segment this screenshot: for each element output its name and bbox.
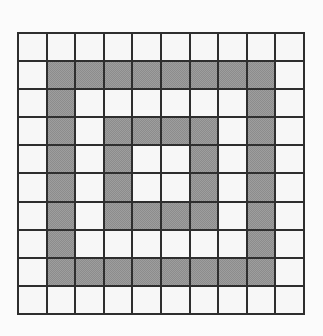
grid-cell-empty[interactable]	[18, 173, 47, 201]
grid-cell-empty[interactable]	[75, 173, 104, 201]
grid-cell-empty[interactable]	[18, 258, 47, 286]
grid-cell-filled[interactable]	[190, 173, 219, 201]
grid-cell-filled[interactable]	[190, 258, 219, 286]
grid-cell-empty[interactable]	[275, 61, 304, 89]
grid-cell-empty[interactable]	[18, 117, 47, 145]
grid-cell-empty[interactable]	[75, 33, 104, 61]
grid-cell-filled[interactable]	[75, 258, 104, 286]
grid-cell-filled[interactable]	[190, 202, 219, 230]
grid-cell-empty[interactable]	[75, 202, 104, 230]
grid-cell-filled[interactable]	[247, 89, 276, 117]
grid-cell-empty[interactable]	[75, 286, 104, 314]
grid-cell-empty[interactable]	[190, 33, 219, 61]
grid-cell-filled[interactable]	[132, 202, 161, 230]
grid-cell-filled[interactable]	[161, 117, 190, 145]
grid-cell-filled[interactable]	[247, 117, 276, 145]
grid-cell-empty[interactable]	[218, 33, 247, 61]
grid-cell-filled[interactable]	[47, 117, 76, 145]
grid-cell-empty[interactable]	[18, 286, 47, 314]
grid-cell-empty[interactable]	[218, 230, 247, 258]
grid-cell-empty[interactable]	[75, 117, 104, 145]
grid-cell-filled[interactable]	[247, 173, 276, 201]
grid-cell-empty[interactable]	[104, 286, 133, 314]
grid-cell-empty[interactable]	[190, 89, 219, 117]
grid-cell-empty[interactable]	[275, 202, 304, 230]
grid-cell-empty[interactable]	[132, 89, 161, 117]
grid-cell-filled[interactable]	[47, 61, 76, 89]
grid-cell-empty[interactable]	[218, 173, 247, 201]
grid-cell-filled[interactable]	[75, 61, 104, 89]
grid-cell-filled[interactable]	[161, 258, 190, 286]
grid-cell-empty[interactable]	[190, 286, 219, 314]
grid-cell-empty[interactable]	[275, 258, 304, 286]
grid-cell-filled[interactable]	[47, 173, 76, 201]
grid-cell-filled[interactable]	[104, 117, 133, 145]
grid-cell-empty[interactable]	[275, 145, 304, 173]
grid-cell-empty[interactable]	[275, 33, 304, 61]
grid-cell-empty[interactable]	[132, 286, 161, 314]
grid-cell-filled[interactable]	[104, 173, 133, 201]
grid-cell-empty[interactable]	[275, 173, 304, 201]
grid-cell-empty[interactable]	[161, 89, 190, 117]
grid-cell-empty[interactable]	[218, 145, 247, 173]
grid-cell-filled[interactable]	[47, 230, 76, 258]
grid-cell-empty[interactable]	[75, 89, 104, 117]
grid-cell-empty[interactable]	[18, 61, 47, 89]
grid-cell-empty[interactable]	[104, 33, 133, 61]
grid-cell-filled[interactable]	[104, 145, 133, 173]
grid-cell-empty[interactable]	[275, 230, 304, 258]
grid-cell-filled[interactable]	[247, 258, 276, 286]
grid-cell-empty[interactable]	[47, 286, 76, 314]
grid-cell-empty[interactable]	[190, 230, 219, 258]
grid-cell-filled[interactable]	[190, 145, 219, 173]
grid-cell-filled[interactable]	[161, 61, 190, 89]
grid-cell-empty[interactable]	[18, 202, 47, 230]
grid-cell-empty[interactable]	[132, 230, 161, 258]
grid-cell-filled[interactable]	[132, 61, 161, 89]
grid-cell-filled[interactable]	[190, 61, 219, 89]
grid-cell-empty[interactable]	[18, 33, 47, 61]
grid-cell-filled[interactable]	[132, 258, 161, 286]
grid-cell-empty[interactable]	[75, 230, 104, 258]
grid-cell-filled[interactable]	[247, 145, 276, 173]
grid-cell-filled[interactable]	[161, 202, 190, 230]
grid-cell-empty[interactable]	[18, 89, 47, 117]
grid-cell-empty[interactable]	[218, 89, 247, 117]
grid-cell-filled[interactable]	[47, 258, 76, 286]
grid-cell-filled[interactable]	[247, 230, 276, 258]
grid-cell-empty[interactable]	[218, 286, 247, 314]
grid-cell-empty[interactable]	[161, 173, 190, 201]
grid-cell-empty[interactable]	[275, 286, 304, 314]
grid-cell-empty[interactable]	[47, 33, 76, 61]
grid-cell-empty[interactable]	[104, 230, 133, 258]
grid-cell-filled[interactable]	[47, 145, 76, 173]
grid-cell-empty[interactable]	[18, 230, 47, 258]
grid-cell-filled[interactable]	[47, 89, 76, 117]
grid-cell-filled[interactable]	[247, 61, 276, 89]
grid-cell-filled[interactable]	[104, 202, 133, 230]
grid-cell-filled[interactable]	[132, 117, 161, 145]
grid-cell-empty[interactable]	[247, 286, 276, 314]
grid-cell-empty[interactable]	[132, 33, 161, 61]
grid-cell-empty[interactable]	[161, 145, 190, 173]
grid-cell-filled[interactable]	[190, 117, 219, 145]
grid-cell-empty[interactable]	[104, 89, 133, 117]
grid-cell-empty[interactable]	[161, 33, 190, 61]
grid-cell-filled[interactable]	[104, 258, 133, 286]
grid-cell-empty[interactable]	[161, 286, 190, 314]
grid-cell-empty[interactable]	[75, 145, 104, 173]
grid-cell-empty[interactable]	[18, 145, 47, 173]
grid-cell-filled[interactable]	[247, 202, 276, 230]
grid-cell-filled[interactable]	[218, 61, 247, 89]
grid-cell-filled[interactable]	[218, 258, 247, 286]
grid-cell-filled[interactable]	[47, 202, 76, 230]
grid-cell-filled[interactable]	[104, 61, 133, 89]
grid-cell-empty[interactable]	[132, 145, 161, 173]
grid-cell-empty[interactable]	[161, 230, 190, 258]
grid-cell-empty[interactable]	[247, 33, 276, 61]
grid-cell-empty[interactable]	[218, 117, 247, 145]
grid-cell-empty[interactable]	[218, 202, 247, 230]
grid-cell-empty[interactable]	[275, 89, 304, 117]
grid-cell-empty[interactable]	[132, 173, 161, 201]
grid-cell-empty[interactable]	[275, 117, 304, 145]
